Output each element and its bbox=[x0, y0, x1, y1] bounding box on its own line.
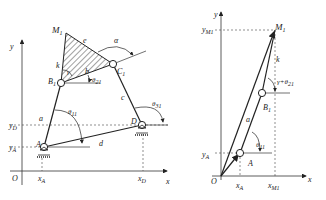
label-O: O bbox=[12, 174, 18, 183]
label-a: a bbox=[39, 114, 43, 123]
svg-text:C1: C1 bbox=[117, 67, 125, 77]
svg-text:yM1: yM1 bbox=[201, 25, 214, 35]
label-x-axis: x bbox=[165, 177, 170, 186]
theta2-arc bbox=[88, 75, 89, 82]
svg-text:y: y bbox=[213, 10, 218, 19]
link-d bbox=[44, 125, 142, 147]
svg-text:yD: yD bbox=[8, 121, 18, 131]
label-d: d bbox=[99, 139, 104, 148]
alpha-arc bbox=[98, 47, 133, 55]
four-bar-linkage-figure: M1 e α k γ b θ21 B1 C1 c θ31 θ11 a D d A… bbox=[0, 0, 326, 200]
svg-text:k: k bbox=[276, 55, 280, 64]
label-D: D bbox=[130, 117, 137, 126]
label-e: e bbox=[83, 36, 87, 45]
joint-C1 bbox=[109, 60, 116, 67]
label-A: A bbox=[35, 140, 41, 149]
svg-text:yA: yA bbox=[8, 143, 17, 153]
label-alpha: α bbox=[114, 36, 119, 45]
joint-B1 bbox=[57, 79, 64, 86]
label-c: c bbox=[121, 93, 125, 102]
link-a bbox=[44, 83, 61, 147]
svg-text:θ21: θ21 bbox=[92, 76, 101, 85]
vector-OA bbox=[221, 155, 238, 176]
svg-text:B1: B1 bbox=[48, 77, 56, 87]
label-b: b bbox=[85, 67, 89, 76]
svg-text:xD: xD bbox=[137, 174, 147, 184]
svg-text:B1: B1 bbox=[263, 103, 271, 113]
svg-text:xA: xA bbox=[235, 181, 244, 191]
svg-text:A: A bbox=[247, 159, 253, 168]
svg-text:x: x bbox=[307, 175, 312, 184]
svg-text:M1: M1 bbox=[274, 22, 286, 33]
left-diagram: M1 e α k γ b θ21 B1 C1 c θ31 θ11 a D d A… bbox=[8, 25, 170, 186]
label-k: k bbox=[56, 61, 60, 70]
joint-A-right bbox=[236, 149, 243, 156]
svg-text:xM1: xM1 bbox=[267, 181, 280, 191]
label-y-axis: y bbox=[9, 42, 14, 51]
svg-text:θ11: θ11 bbox=[68, 108, 77, 117]
svg-text:M1: M1 bbox=[51, 25, 63, 36]
svg-text:γ+θ21: γ+θ21 bbox=[277, 78, 294, 87]
svg-text:θ31: θ31 bbox=[152, 100, 161, 109]
svg-text:yA: yA bbox=[201, 150, 210, 160]
joint-B1-right bbox=[258, 89, 265, 96]
svg-text:O: O bbox=[211, 177, 217, 186]
right-diagram: y yM1 M1 k γ+θ21 B1 a θ11 yA A O xA xM1 … bbox=[201, 10, 312, 191]
svg-text:a: a bbox=[246, 115, 250, 124]
svg-text:xA: xA bbox=[37, 174, 46, 184]
ground-pivot-D bbox=[135, 121, 149, 135]
svg-text:θ11: θ11 bbox=[256, 141, 265, 150]
